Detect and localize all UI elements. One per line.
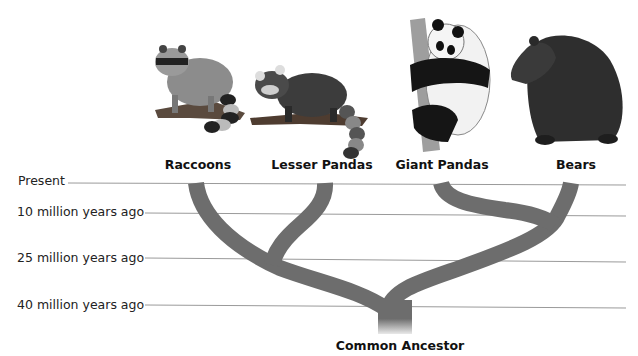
red-panda-illustration [250,65,368,159]
timeline-label-present: Present [18,173,65,188]
branches [196,183,571,310]
giant-panda-branch [441,183,555,225]
timeline-label-40-mya: 40 million years ago [17,297,144,312]
taxon-label-lesser-pandas: Lesser Pandas [271,157,372,172]
25-mya-line [145,258,626,262]
taxon-label-giant-pandas: Giant Pandas [395,157,488,172]
timeline-label-10-mya: 10 million years ago [17,204,144,219]
giant-panda-illustration [410,18,490,152]
taxon-label-raccoons: Raccoons [165,157,231,172]
lesser-panda-branch [272,183,325,265]
raccoon-illustration [155,45,245,133]
taxon-label-bears: Bears [556,157,596,172]
common-ancestor-label: Common Ancestor [336,338,464,353]
raccoon-branch [196,183,388,310]
timeline-label-25-mya: 25 million years ago [17,250,144,265]
bear-illustration [511,36,623,145]
common-ancestor-trunk [378,300,412,334]
present-line [68,183,626,185]
